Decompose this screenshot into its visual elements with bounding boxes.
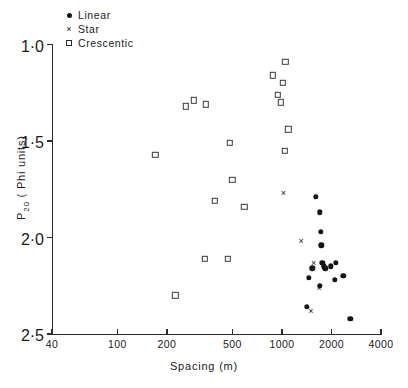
data-point-crescentic (172, 292, 178, 298)
data-point-crescentic (285, 126, 291, 132)
data-point-crescentic (241, 203, 247, 209)
data-point-linear (328, 264, 333, 269)
x-tick-label: 100 (108, 338, 127, 350)
data-point-linear (318, 229, 323, 234)
open-square-icon (60, 40, 78, 46)
x-tick-label: 200 (158, 338, 177, 350)
x-tick-label: 40 (46, 338, 58, 350)
legend-label: Linear (78, 9, 111, 21)
data-point-crescentic (229, 176, 235, 182)
legend-label: Star (78, 23, 100, 35)
x-tick (281, 329, 282, 335)
data-point-linear (341, 273, 346, 278)
data-point-linear (348, 316, 353, 321)
data-point-crescentic (203, 101, 209, 107)
x-tick-label: 500 (223, 338, 242, 350)
filled-circle-icon (60, 13, 78, 18)
y-tick-label: 1·0 (10, 38, 44, 56)
data-point-crescentic (279, 80, 285, 86)
y-tick (47, 237, 53, 238)
x-mark-icon: × (60, 25, 78, 34)
x-tick (380, 329, 381, 335)
x-tick-label: 2000 (319, 338, 344, 350)
y-title-sub: 20 (22, 201, 31, 212)
chart-figure: Linear × Star Crescentic 1·01·52·02·5 40… (0, 0, 408, 388)
x-tick-label: 1000 (269, 338, 294, 350)
data-point-linear (333, 260, 338, 265)
data-point-crescentic (282, 59, 288, 65)
legend-label: Crescentic (78, 37, 134, 49)
y-title-rest: ( Phi units) (15, 135, 27, 201)
data-point-crescentic (226, 140, 232, 146)
data-point-crescentic (270, 72, 276, 78)
legend-item-crescentic: Crescentic (60, 36, 134, 50)
data-point-crescentic (202, 256, 208, 262)
x-tick (117, 329, 118, 335)
x-tick (51, 329, 52, 335)
data-point-crescentic (190, 97, 196, 103)
data-point-star: × (281, 189, 286, 198)
data-point-linear (313, 194, 318, 199)
data-point-crescentic (282, 147, 288, 153)
y-tick (47, 44, 53, 45)
chart-legend: Linear × Star Crescentic (60, 8, 134, 50)
legend-item-star: × Star (60, 22, 134, 36)
y-tick (47, 140, 53, 141)
data-point-crescentic (211, 198, 217, 204)
legend-item-linear: Linear (60, 8, 134, 22)
data-point-crescentic (183, 103, 189, 109)
x-tick (331, 329, 332, 335)
data-point-crescentic (225, 256, 231, 262)
data-point-linear (318, 243, 323, 248)
data-point-linear (306, 275, 311, 280)
data-point-crescentic (278, 99, 284, 105)
data-point-star: × (316, 283, 321, 292)
y-title-main: P (15, 212, 27, 220)
data-point-star: × (308, 306, 313, 315)
data-point-linear (332, 277, 337, 282)
y-axis-spine (52, 44, 53, 335)
data-point-crescentic (274, 91, 280, 97)
x-axis-title: Spacing (m) (0, 360, 408, 372)
data-point-linear (317, 210, 322, 215)
data-point-star: × (299, 237, 304, 246)
data-point-star: × (311, 258, 316, 267)
data-point-crescentic (152, 151, 158, 157)
data-point-linear (322, 266, 327, 271)
x-tick-label: 4000 (369, 338, 394, 350)
x-tick (166, 329, 167, 335)
x-tick (232, 329, 233, 335)
y-tick-label: 2·5 (10, 327, 44, 345)
y-axis-title: P20 ( Phi units) (15, 103, 30, 253)
